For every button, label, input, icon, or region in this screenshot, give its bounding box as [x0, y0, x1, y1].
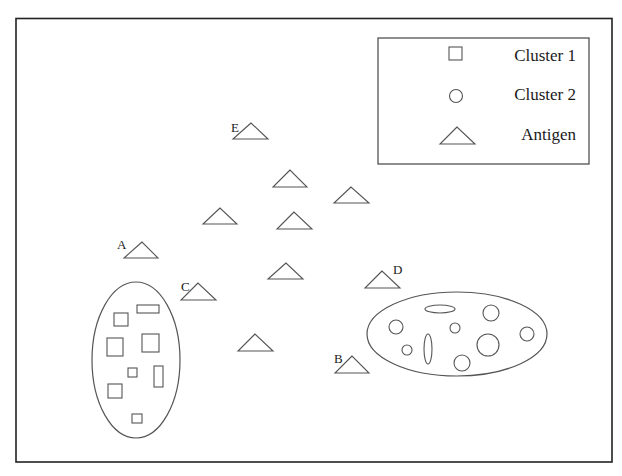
- legend-label-cluster-2: Cluster 2: [514, 85, 576, 104]
- antigen-label-a: A: [117, 237, 127, 252]
- legend-label-antigen: Antigen: [521, 125, 576, 144]
- legend: Cluster 1 Cluster 2 Antigen: [378, 38, 589, 164]
- antigen-label-b: B: [334, 351, 343, 366]
- antigen-label-c: C: [181, 279, 190, 294]
- antigen-label-d: D: [393, 262, 402, 277]
- legend-label-cluster-1: Cluster 1: [514, 46, 576, 65]
- diagram-canvas: Cluster 1 Cluster 2 Antigen EACDB: [0, 0, 622, 476]
- antigen-label-e: E: [231, 120, 239, 135]
